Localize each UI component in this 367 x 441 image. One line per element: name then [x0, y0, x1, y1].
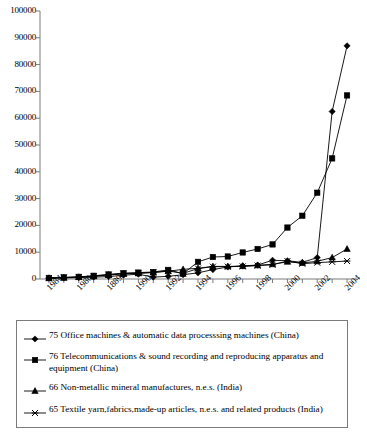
data-point-triangle	[32, 388, 38, 394]
data-point-square	[300, 213, 305, 218]
data-point-square	[315, 190, 320, 195]
data-point-diamond	[329, 108, 335, 114]
legend-marker	[23, 352, 47, 364]
chart-legend: 75 Office machines & automatic data proc…	[16, 320, 348, 428]
data-point-square	[270, 242, 275, 247]
data-point-triangle	[344, 246, 350, 252]
x-star-marker-icon	[23, 407, 47, 419]
y-tick-label: 30000	[0, 194, 36, 203]
legend-item: 65 Textile yarn,fabrics,made-up articles…	[17, 404, 347, 417]
legend-marker	[23, 405, 47, 417]
data-point-square	[329, 156, 334, 161]
legend-label: 76 Telecommunications & sound recording …	[47, 351, 347, 374]
legend-marker	[23, 383, 47, 395]
legend-item: 76 Telecommunications & sound recording …	[17, 351, 347, 374]
legend-item: 66 Non-metallic mineral manufactures, n.…	[17, 382, 347, 395]
square-marker-icon	[23, 354, 47, 366]
data-point-square	[210, 254, 215, 259]
y-tick-label: 10000	[0, 247, 36, 256]
data-point-square	[255, 246, 260, 251]
y-tick-label: 50000	[0, 140, 36, 149]
y-tick-label: 90000	[0, 33, 36, 42]
data-point-square	[32, 357, 37, 362]
data-point-square	[344, 93, 349, 98]
y-tick-label: 100000	[0, 6, 36, 15]
y-tick-label: 20000	[0, 220, 36, 229]
data-point-x-star	[32, 410, 39, 416]
line-chart: 0100002000030000400005000060000700008000…	[0, 0, 367, 315]
data-point-diamond	[32, 336, 38, 342]
triangle-marker-icon	[23, 385, 47, 397]
y-tick-label: 60000	[0, 113, 36, 122]
legend-label: 65 Textile yarn,fabrics,made-up articles…	[47, 404, 323, 416]
y-tick-label: 0	[0, 274, 36, 283]
series-line-0	[49, 46, 347, 278]
chart-page: 0100002000030000400005000060000700008000…	[0, 0, 367, 441]
data-point-diamond	[344, 43, 350, 49]
data-point-square	[195, 259, 200, 264]
data-point-square	[240, 250, 245, 255]
data-point-square	[225, 254, 230, 259]
legend-item: 75 Office machines & automatic data proc…	[17, 330, 347, 343]
y-tick-label: 40000	[0, 167, 36, 176]
legend-label: 66 Non-metallic mineral manufactures, n.…	[47, 382, 242, 394]
plot-canvas	[0, 0, 367, 315]
data-point-square	[285, 225, 290, 230]
data-point-x-star	[344, 258, 351, 264]
series-line-1	[49, 95, 347, 278]
y-tick-label: 80000	[0, 60, 36, 69]
diamond-marker-icon	[23, 333, 47, 345]
legend-label: 75 Office machines & automatic data proc…	[47, 330, 299, 342]
legend-marker	[23, 331, 47, 343]
y-tick-label: 70000	[0, 86, 36, 95]
